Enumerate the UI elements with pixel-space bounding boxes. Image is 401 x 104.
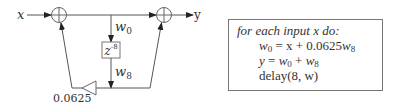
algorithm-header: for each input x do:	[237, 23, 382, 38]
feedback-line	[61, 23, 72, 88]
w0-label: w0	[115, 19, 132, 36]
feedforward-line	[150, 23, 162, 88]
algorithm-line-1: w0 = x + 0.0625w8	[237, 38, 382, 53]
adder-output-icon	[157, 8, 172, 23]
adder-input-icon	[52, 8, 67, 23]
algorithm-line-2: y = w0 + w8	[237, 53, 382, 68]
block-diagram: x y w0 z-8 w8 0.0625	[0, 0, 225, 104]
input-label: x	[17, 7, 25, 22]
algorithm-line-3: delay(8, w)	[237, 68, 382, 83]
algorithm-box: for each input x do: w0 = x + 0.0625w8 y…	[228, 19, 383, 91]
output-label: y	[193, 8, 201, 22]
gain-label: 0.0625	[53, 92, 92, 104]
w8-label: w8	[115, 64, 132, 81]
